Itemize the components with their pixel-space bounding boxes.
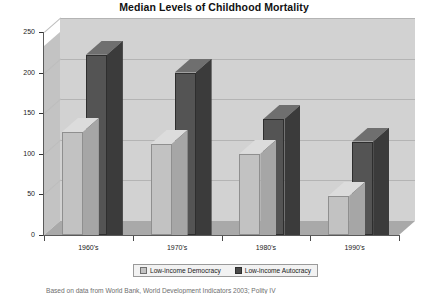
x-axis-tick: [133, 236, 134, 241]
legend-swatch-icon: [235, 267, 242, 274]
bar-side-face: [373, 128, 389, 235]
gridline: [60, 18, 415, 19]
x-axis-label-1980s: 1980's: [231, 244, 301, 251]
bar-front-face: [328, 196, 349, 235]
x-axis-label-1960s: 1960's: [53, 244, 123, 251]
legend-label: Low-income Autocracy: [245, 267, 311, 274]
bar-1980s-series1: [239, 140, 276, 235]
y-axis-tick-label: 150: [11, 109, 35, 116]
y-axis-tick-label: 50: [11, 190, 35, 197]
y-axis-tick-label: 250: [11, 28, 35, 35]
bar-front-face: [151, 144, 172, 235]
x-axis-tick: [44, 236, 45, 241]
y-axis-tick-label: 100: [11, 150, 35, 157]
chart-legend: Low-income Democracy Low-income Autocrac…: [133, 264, 318, 277]
chart-container: Median Levels of Childhood Mortality Chi…: [0, 0, 428, 296]
legend-label: Low-income Democracy: [150, 267, 221, 274]
bar-front-face: [62, 132, 83, 235]
x-axis-tick: [222, 236, 223, 241]
bar-front-face: [239, 154, 260, 235]
legend-item-low-income-democracy: Low-income Democracy: [140, 267, 221, 274]
y-axis-tick-label: 200: [11, 69, 35, 76]
bar-side-face: [172, 130, 188, 235]
source-note: Based on data from World Bank, World Dev…: [46, 287, 406, 294]
bar-side-face: [196, 59, 212, 235]
y-axis-tick-label: 0: [11, 231, 35, 238]
plot-side-wall: [44, 32, 60, 235]
bar-side-face: [260, 140, 276, 235]
bar-1970s-series1: [151, 130, 188, 235]
x-axis-tick: [399, 236, 400, 241]
bar-side-face: [107, 41, 123, 235]
x-axis-label-1970s: 1970's: [142, 244, 212, 251]
x-axis-label-1990s: 1990's: [320, 244, 390, 251]
x-axis-tick: [310, 236, 311, 241]
legend-swatch-icon: [140, 267, 147, 274]
y-axis-line: [43, 32, 44, 236]
legend-item-low-income-autocracy: Low-income Autocracy: [235, 267, 311, 274]
bar-1990s-series1: [328, 182, 365, 235]
bar-side-face: [284, 105, 300, 235]
bar-side-face: [83, 118, 99, 235]
bar-1960s-series1: [62, 118, 99, 235]
